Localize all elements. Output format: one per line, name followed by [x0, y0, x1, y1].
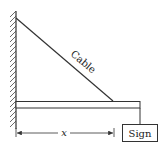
cable-label: Cable: [69, 48, 98, 75]
dimension-label: x: [61, 127, 67, 138]
sign-label: Sign: [129, 128, 152, 139]
cable: [16, 18, 113, 101]
beam: [16, 102, 140, 109]
diagram-canvas: Cable Sign x: [0, 0, 168, 149]
wall-hatching: [10, 11, 16, 127]
dimension-x: x: [16, 127, 114, 138]
wall: [10, 11, 16, 129]
